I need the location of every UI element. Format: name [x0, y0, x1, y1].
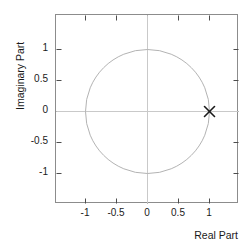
- y-axis-title-text: Imaginary Part: [15, 42, 26, 110]
- pole-zero-plot-figure: -1 -0.5 0 0.5 1 1 0.5 0 -0.5 -1 Real Par…: [0, 0, 251, 247]
- y-tick-label-neg0p5: -0.5: [31, 136, 48, 146]
- x-tick-label-1: 1: [206, 208, 212, 218]
- y-tick-label-0: 0: [42, 105, 48, 115]
- plot-axes-box: [55, 14, 238, 203]
- y-tick-label-neg1: -1: [39, 167, 48, 177]
- x-tick-label-neg0p5: -0.5: [107, 208, 124, 218]
- y-axis-title: Imaginary Part: [3, 14, 17, 110]
- y-tick-label-0p5: 0.5: [34, 74, 48, 84]
- x-tick-label-neg1: -1: [81, 208, 90, 218]
- plot-canvas: [56, 15, 239, 204]
- x-axis-title: Real Part: [194, 229, 238, 241]
- y-tick-label-1: 1: [42, 43, 48, 53]
- x-tick-label-0: 0: [144, 208, 150, 218]
- x-tick-label-0p5: 0.5: [171, 208, 185, 218]
